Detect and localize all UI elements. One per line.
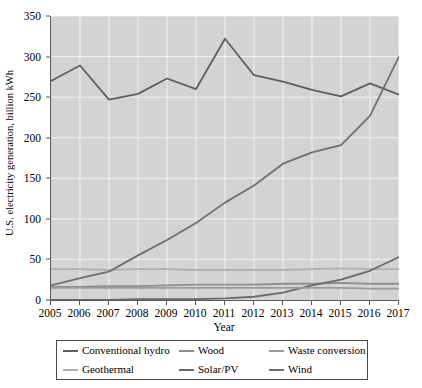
legend-item-label: Waste conversion <box>288 345 366 356</box>
chart-figure: U.S. electricity generation, billion kWh… <box>0 0 422 388</box>
x-axis-tick-label: 2013 <box>271 307 294 319</box>
x-axis-tick-label: 2010 <box>184 307 207 319</box>
x-axis-tick-label: 2014 <box>300 307 323 319</box>
legend-line-swatch-icon <box>269 350 284 352</box>
x-axis-tick-mark <box>195 301 196 305</box>
x-axis-tick-mark <box>282 301 283 305</box>
y-axis-tick-mark <box>46 56 50 57</box>
y-axis-tick-mark <box>46 300 50 301</box>
y-axis-tick-label: 50 <box>14 253 46 265</box>
plot-area <box>50 16 399 301</box>
y-axis-tick-mark <box>46 97 50 98</box>
x-axis-tick-mark <box>108 301 109 305</box>
x-axis-tick-mark <box>311 301 312 305</box>
x-axis-tick-mark <box>50 301 51 305</box>
x-axis-tick-label: 2006 <box>68 307 91 319</box>
x-axis-tick-mark <box>398 301 399 305</box>
y-axis-tick-mark <box>46 16 50 17</box>
legend-item-label: Wood <box>198 345 224 356</box>
x-axis-tick-label: 2015 <box>329 307 352 319</box>
legend-item-label: Solar/PV <box>198 364 238 375</box>
x-axis-tick-mark <box>166 301 167 305</box>
y-axis-tick-mark <box>46 137 50 138</box>
chart-legend: Conventional hydroWoodWaste conversionGe… <box>56 340 368 380</box>
legend-line-swatch-icon <box>179 369 194 371</box>
legend-item-label: Geothermal <box>82 364 134 375</box>
legend-item-wood[interactable]: Wood <box>175 345 265 356</box>
series-line-waste-conversion <box>51 288 399 289</box>
series-canvas <box>51 16 399 300</box>
legend-item-geothermal[interactable]: Geothermal <box>59 364 175 375</box>
x-axis-tick-mark <box>79 301 80 305</box>
y-axis-tick-label: 150 <box>14 172 46 184</box>
y-axis-tick-mark <box>46 178 50 179</box>
x-axis-tick-label: 2016 <box>358 307 381 319</box>
x-axis-tick-mark <box>253 301 254 305</box>
y-axis-tick-label: 300 <box>14 51 46 63</box>
x-axis-tick-label: 2007 <box>97 307 120 319</box>
x-axis-tick-label: 2005 <box>39 307 62 319</box>
x-axis-tick-label: 2008 <box>126 307 149 319</box>
x-axis-tick-mark <box>340 301 341 305</box>
y-axis-tick-mark <box>46 218 50 219</box>
legend-item-solar-pv[interactable]: Solar/PV <box>175 364 265 375</box>
y-axis-tick-label: 200 <box>14 132 46 144</box>
x-axis-tick-label: 2011 <box>213 307 236 319</box>
legend-item-waste-conversion[interactable]: Waste conversion <box>265 345 371 356</box>
y-axis-tick-label: 250 <box>14 91 46 103</box>
y-axis-tick-labels: 050100150200250300350 <box>14 0 46 306</box>
legend-line-swatch-icon <box>179 350 194 352</box>
x-axis-tick-mark <box>369 301 370 305</box>
y-axis-tick-mark <box>46 259 50 260</box>
y-axis-tick-label: 350 <box>14 10 46 22</box>
x-axis-tick-label: 2009 <box>155 307 178 319</box>
x-axis-tick-label: 2012 <box>242 307 265 319</box>
legend-item-conventional-hydro[interactable]: Conventional hydro <box>59 345 175 356</box>
legend-line-swatch-icon <box>269 369 284 371</box>
legend-line-swatch-icon <box>63 369 78 371</box>
legend-item-label: Conventional hydro <box>82 345 170 356</box>
legend-item-wind[interactable]: Wind <box>265 364 371 375</box>
y-axis-tick-label: 0 <box>14 294 46 306</box>
x-axis-title: Year <box>50 321 398 333</box>
y-axis-title-text: U.S. electricity generation, billion kWh <box>4 70 15 236</box>
x-axis-tick-label: 2017 <box>387 307 410 319</box>
legend-line-swatch-icon <box>63 350 78 352</box>
x-axis-tick-mark <box>137 301 138 305</box>
y-axis-tick-label: 100 <box>14 213 46 225</box>
legend-item-label: Wind <box>288 364 312 375</box>
x-axis-tick-mark <box>224 301 225 305</box>
